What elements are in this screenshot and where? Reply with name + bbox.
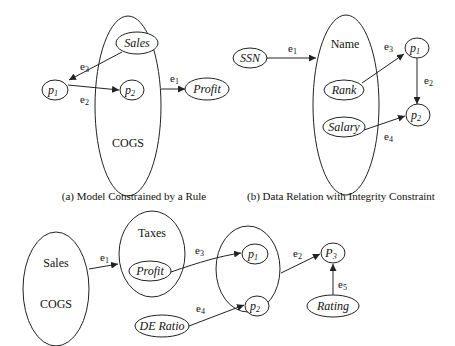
cogs-group-label: COGS: [40, 297, 72, 311]
profit-node-label: Profit: [192, 82, 221, 96]
edge-e2-label: e2: [293, 247, 302, 261]
diagram-canvas: COGS Sales p1 p2 Profit e3 e2 e1 (a) Mod…: [0, 0, 455, 346]
edge-e1-label: e1: [100, 251, 109, 265]
edge-e4: [364, 116, 405, 130]
diagram-a: COGS Sales p1 p2 Profit e3 e2 e1 (a) Mod…: [42, 16, 229, 203]
de-ratio-node-label: DE Ratio: [139, 319, 185, 333]
edge-e1: [89, 264, 118, 269]
edge-e1-label: e1: [288, 42, 297, 56]
sales-node-label: Sales: [124, 36, 150, 50]
taxes-group-label: Taxes: [138, 226, 166, 240]
edge-e5-label: e5: [338, 278, 347, 292]
diagram-b: Name SSN Rank Salary p1 p2 e1 e3 e2 e4 (…: [233, 15, 435, 203]
edge-e4-label: e4: [196, 302, 205, 316]
salary-node-label: Salary: [328, 120, 360, 134]
edge-e3-label: e3: [80, 60, 89, 74]
edge-e3: [69, 52, 122, 80]
edge-e3-label: e3: [195, 244, 204, 258]
diagram-c: Sales COGS Taxes Profit p1 p2 DE Ratio P…: [23, 211, 359, 346]
rank-node-label: Rank: [331, 83, 357, 97]
edge-e3: [362, 54, 404, 83]
edge-e2-label: e2: [424, 74, 433, 88]
ssn-node-label: SSN: [240, 51, 261, 65]
taxes-group-ellipse: [119, 211, 185, 297]
sales-group-label: Sales: [43, 256, 69, 270]
edge-e3-label: e3: [384, 40, 393, 54]
caption-b: (b) Data Relation with Integrity Constra…: [247, 190, 435, 203]
edge-e2: [68, 85, 119, 90]
edge-e2-label: e2: [80, 93, 89, 107]
name-group-label: Name: [331, 37, 360, 51]
rating-node-label: Rating: [316, 299, 349, 313]
sales-cogs-group-ellipse: [23, 232, 89, 346]
edge-e3: [171, 253, 241, 272]
profit-node-label: Profit: [135, 264, 164, 278]
cogs-group-label: COGS: [112, 136, 144, 150]
edge-e1-label: e1: [170, 72, 179, 86]
caption-a: (a) Model Constrained by a Rule: [62, 190, 207, 203]
edge-e4-label: e4: [384, 130, 393, 144]
